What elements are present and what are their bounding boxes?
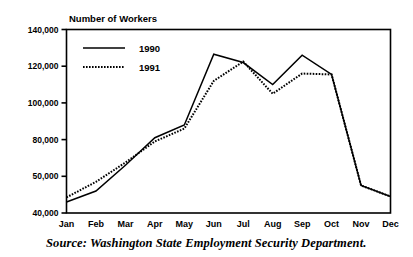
y-tick-label: 140,000 <box>28 25 59 35</box>
x-tick-label-nov: Nov <box>353 219 370 229</box>
x-tick-label-oct: Oct <box>324 219 339 229</box>
y-tick-label: 120,000 <box>28 61 59 71</box>
workers-line-chart: Number of Workers 140,000120,000100,0008… <box>0 0 413 257</box>
x-tick-label-mar: Mar <box>117 219 134 229</box>
x-axis-tick-labels: JanFebMarAprMayJunJulAugSepOctNovDec <box>59 219 399 229</box>
y-tick-label: 80,000 <box>33 135 59 145</box>
x-tick-label-may: May <box>176 219 194 229</box>
x-tick-label-jan: Jan <box>59 219 75 229</box>
source-caption: Source: Washington State Employment Secu… <box>46 236 366 251</box>
y-tick-label: 40,000 <box>33 208 59 218</box>
y-tick-label: 50,000 <box>33 171 59 181</box>
plot-area-border <box>67 30 391 214</box>
x-tick-label-feb: Feb <box>88 219 105 229</box>
y-axis-tick-labels: 140,000120,000100,00080,00050,00040,000 <box>28 25 59 219</box>
chart-title: Number of Workers <box>69 13 157 24</box>
plot-frame <box>67 30 391 214</box>
x-tick-label-sep: Sep <box>294 219 311 229</box>
x-tick-label-apr: Apr <box>147 219 163 229</box>
x-tick-label-jun: Jun <box>206 219 222 229</box>
legend-label-1991: 1991 <box>139 62 161 73</box>
x-tick-label-aug: Aug <box>264 219 282 229</box>
x-tick-label-jul: Jul <box>237 219 250 229</box>
chart-figure: Number of Workers 140,000120,000100,0008… <box>0 0 413 257</box>
legend-label-1990: 1990 <box>139 43 160 54</box>
y-tick-label: 100,000 <box>28 98 59 108</box>
x-tick-label-dec: Dec <box>382 219 399 229</box>
